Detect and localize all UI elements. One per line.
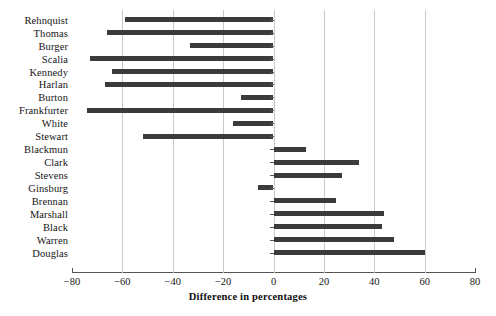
y-axis-tick [270,123,274,124]
y-axis-tick [270,72,274,73]
y-label-harlan: Harlan [0,79,68,90]
bar-row [72,91,475,104]
y-axis-tick [270,201,274,202]
bar-row [72,117,475,130]
bar-black [274,224,382,229]
plot-area [72,10,475,273]
bar-row [72,40,475,53]
y-label-stewart: Stewart [0,131,68,142]
bar-row [72,130,475,143]
y-label-burger: Burger [0,41,68,52]
x-tick-label--80: −80 [52,276,92,287]
y-label-rehnquist: Rehnquist [0,15,68,26]
bar-rehnquist [125,17,274,22]
bar-row [72,221,475,234]
y-label-blackmun: Blackmun [0,144,68,155]
y-axis-tick [270,188,274,189]
bar-row [72,78,475,91]
bar-row [72,234,475,247]
bar-blackmun [274,147,307,152]
x-tick-label--20: −20 [203,276,243,287]
bar-row [72,104,475,117]
y-label-stevens: Stevens [0,170,68,181]
bar-row [72,14,475,27]
bar-row [72,195,475,208]
y-label-warren: Warren [0,235,68,246]
y-axis-tick [270,33,274,34]
bar-row [72,156,475,169]
y-axis-tick [270,46,274,47]
axis-end-cap [475,268,476,273]
y-axis-tick [270,136,274,137]
bar-row [72,143,475,156]
y-label-douglas: Douglas [0,248,68,259]
y-label-white: White [0,118,68,129]
y-axis-tick [270,162,274,163]
y-axis-tick [270,84,274,85]
y-axis-tick [270,149,274,150]
bar-stewart [143,134,274,139]
bar-scalia [90,56,274,61]
bar-row [72,182,475,195]
y-label-thomas: Thomas [0,28,68,39]
bar-clark [274,160,360,165]
x-tick-label--40: −40 [153,276,193,287]
y-axis-tick [270,110,274,111]
bar-row [72,27,475,40]
x-tick-label--60: −60 [102,276,142,287]
y-axis-tick [270,214,274,215]
x-tick-label-40: 40 [354,276,394,287]
bar-brennan [274,198,337,203]
x-axis-tick-labels: −80−60−40−20020406080 [0,276,496,292]
x-tick-label-0: 0 [254,276,294,287]
bar-row [72,66,475,79]
y-label-clark: Clark [0,157,68,168]
bar-row [72,169,475,182]
x-tick-label-20: 20 [304,276,344,287]
y-label-frankfurter: Frankfurter [0,105,68,116]
y-label-brennan: Brennan [0,196,68,207]
axis-end-cap [72,268,73,273]
x-tick-label-80: 80 [455,276,495,287]
y-axis-tick [270,175,274,176]
x-tick-label-60: 60 [405,276,445,287]
bar-kennedy [112,69,273,74]
y-axis-tick [270,97,274,98]
bar-frankfurter [87,108,273,113]
bar-row [72,247,475,260]
y-axis-tick [270,59,274,60]
y-axis-tick [270,253,274,254]
bar-stevens [274,173,342,178]
x-axis-title: Difference in percentages [0,291,496,302]
bar-harlan [105,82,274,87]
bar-row [72,208,475,221]
bar-white [233,121,273,126]
bar-burger [190,43,273,48]
y-label-scalia: Scalia [0,54,68,65]
y-label-marshall: Marshall [0,209,68,220]
bar-warren [274,237,395,242]
y-label-black: Black [0,222,68,233]
y-axis-tick [270,227,274,228]
y-label-burton: Burton [0,92,68,103]
y-label-kennedy: Kennedy [0,67,68,78]
bar-marshall [274,211,385,216]
bar-chart: RehnquistThomasBurgerScaliaKennedyHarlan… [0,0,496,316]
bar-thomas [107,30,273,35]
y-axis-tick [270,240,274,241]
bar-row [72,53,475,66]
y-axis-tick [270,20,274,21]
y-axis-category-labels: RehnquistThomasBurgerScaliaKennedyHarlan… [0,10,68,273]
bar-douglas [274,250,425,255]
y-label-ginsburg: Ginsburg [0,183,68,194]
